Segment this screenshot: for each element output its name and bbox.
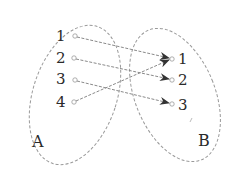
set-a-element-4: 4 bbox=[56, 93, 66, 111]
set-b-element-1: 1 bbox=[178, 50, 188, 68]
mapping-diagram: 1 2 3 4 1 2 3 A B bbox=[0, 0, 246, 176]
arrow-4-to-1 bbox=[76, 60, 169, 101]
arrow-2-to-2 bbox=[76, 59, 169, 79]
set-b-ellipse bbox=[112, 15, 239, 175]
set-a-points bbox=[72, 34, 77, 104]
arrow-3-to-3 bbox=[77, 81, 169, 103]
mapping-arrows bbox=[76, 37, 169, 103]
set-b-element-2: 2 bbox=[178, 71, 188, 89]
set-b-label: B bbox=[198, 131, 210, 150]
set-b-element-3: 3 bbox=[178, 96, 188, 114]
set-a-element-2: 2 bbox=[56, 49, 66, 67]
arrow-1-to-1 bbox=[77, 37, 169, 58]
set-a-element-3: 3 bbox=[56, 70, 66, 88]
set-a-element-1: 1 bbox=[56, 27, 66, 45]
set-b-points bbox=[170, 57, 174, 106]
set-a-label: A bbox=[31, 132, 44, 151]
